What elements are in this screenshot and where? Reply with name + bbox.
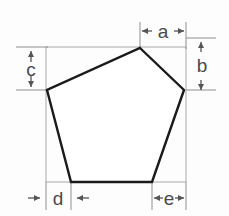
- dimension-label-e: e: [164, 188, 175, 209]
- dimension-b: b: [197, 42, 208, 90]
- dimension-label-b: b: [197, 55, 208, 76]
- dimension-a: a: [142, 21, 184, 42]
- figure-canvas: a b c d e: [0, 0, 229, 216]
- pentagon-dimension-figure: a b c d e: [0, 0, 229, 216]
- dimension-d: d: [28, 188, 89, 209]
- dimension-label-d: d: [53, 188, 64, 209]
- dimension-label-a: a: [158, 21, 169, 42]
- dimension-e: e: [154, 188, 184, 209]
- dimension-c: c: [26, 51, 36, 87]
- pentagon-shape: [47, 48, 184, 182]
- dimension-label-c: c: [26, 59, 36, 80]
